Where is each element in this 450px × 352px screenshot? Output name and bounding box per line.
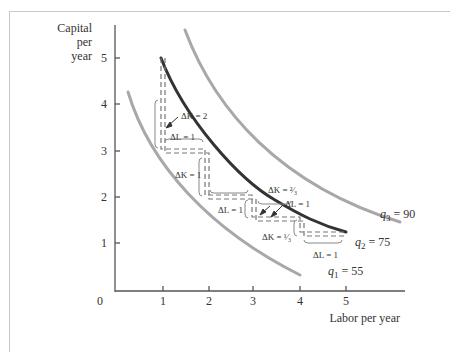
y-axis-label-line2: per xyxy=(77,35,92,49)
x-tick-2: 2 xyxy=(206,294,212,308)
delta-k-one-third-label: ΔK = ¹⁄₃ xyxy=(262,232,291,242)
q3-label: q3 = 90 xyxy=(380,207,415,223)
q1-label-value: = 55 xyxy=(339,264,364,278)
y-tick-5: 5 xyxy=(101,51,107,65)
delta-k-2-label: ΔK = 2 xyxy=(181,111,207,121)
y-tick-2: 2 xyxy=(101,190,107,204)
delta-k-1-label: ΔK = 1 xyxy=(175,170,201,180)
x-tick-3: 3 xyxy=(250,294,256,308)
step-dashes xyxy=(161,58,346,236)
delta-l-1-label-d: ΔL = 1 xyxy=(313,250,338,260)
q2-label-value: = 75 xyxy=(366,235,391,249)
isoquant-q2 xyxy=(161,58,346,232)
delta-l-1-label-b: ΔL = 1 xyxy=(218,205,243,215)
x-tick-4: 4 xyxy=(297,294,303,308)
delta-l-1-label-c: ΔL = 1 xyxy=(285,199,310,209)
delta-k-two-thirds-label: ΔK = ²⁄₃ xyxy=(268,185,297,195)
y-axis-label-line1: Capital xyxy=(57,21,92,35)
x-axis-label: Labor per year xyxy=(329,311,400,325)
x-tick-5: 5 xyxy=(343,294,349,308)
y-tick-4: 4 xyxy=(101,97,107,111)
q3-label-value: = 90 xyxy=(391,207,416,221)
y-tick-3: 3 xyxy=(101,144,107,158)
delta-l-1-label-a: ΔL = 1 xyxy=(170,132,195,142)
origin-label: 0 xyxy=(97,294,103,308)
y-tick-1: 1 xyxy=(101,236,107,250)
y-axis-label-line3: year xyxy=(71,49,92,63)
q2-label: q2 = 75 xyxy=(355,235,390,251)
q1-label: q1 = 55 xyxy=(328,264,363,280)
isoquant-q1 xyxy=(128,92,300,275)
x-tick-1: 1 xyxy=(160,294,166,308)
